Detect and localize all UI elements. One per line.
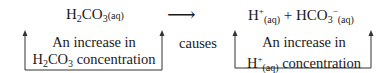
product-h-plus: H+(aq) xyxy=(248,7,280,23)
products: H+(aq) + HCO3−(aq) xyxy=(248,7,354,25)
reaction-arrow-icon: ⟶ xyxy=(167,4,196,24)
left-box-label: An increase in H2CO3 concentration xyxy=(30,34,158,72)
causes-label: causes xyxy=(172,35,224,52)
plus-sign: + xyxy=(284,7,292,23)
reactant-h2co3: H2CO3(aq) xyxy=(66,7,124,24)
product-hco3-minus: HCO3−(aq) xyxy=(296,7,354,23)
right-box-label: An increase in H+(aq) concentration xyxy=(240,34,368,73)
